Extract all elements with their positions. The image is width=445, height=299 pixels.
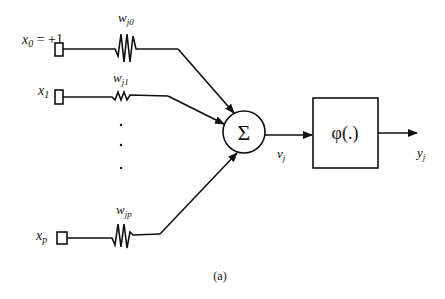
arrow-x0-to-sum bbox=[178, 49, 234, 113]
input-xp-label: xp bbox=[35, 228, 47, 245]
weight-resistor-j0 bbox=[63, 34, 178, 62]
induced-field-label: vj bbox=[277, 146, 286, 163]
output-label: yj bbox=[415, 145, 426, 162]
sigma-symbol: Σ bbox=[238, 120, 251, 145]
input-x1-label: x1 bbox=[37, 83, 49, 100]
arrow-xp-to-sum bbox=[160, 153, 237, 234]
input-x0: x0 = +1 wj0 bbox=[21, 10, 234, 113]
ellipsis-dots bbox=[120, 124, 122, 169]
weight-label-jp: wjp bbox=[116, 202, 132, 219]
input-terminal-xp bbox=[57, 232, 67, 244]
activation-function: φ(.) bbox=[313, 98, 378, 168]
weight-resistor-jp bbox=[67, 224, 160, 248]
input-terminal-x0 bbox=[55, 43, 63, 56]
input-terminal-x1 bbox=[55, 90, 63, 104]
weight-label-j1: wj1 bbox=[113, 70, 129, 87]
summing-junction: Σ bbox=[223, 111, 265, 153]
arrow-x1-to-sum bbox=[168, 96, 224, 124]
input-xp: xp wjp bbox=[35, 153, 237, 248]
input-x1: x1 wj1 bbox=[37, 70, 224, 124]
neuron-diagram: x0 = +1 wj0 x1 wj1 xp wjp Σ vj φ(.) bbox=[0, 0, 445, 299]
weight-label-j0: wj0 bbox=[118, 10, 134, 27]
figure-caption: (a) bbox=[213, 269, 226, 283]
activation-label: φ(.) bbox=[332, 123, 359, 144]
weight-resistor-j1 bbox=[63, 92, 168, 100]
